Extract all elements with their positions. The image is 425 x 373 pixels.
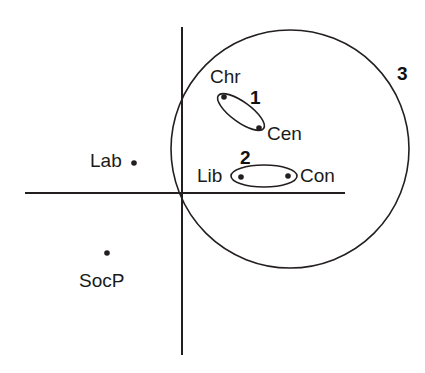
data-point-cen <box>256 125 262 131</box>
data-point-lib <box>238 174 244 180</box>
cluster-outlines-group <box>171 30 409 268</box>
data-point-con <box>285 173 291 179</box>
point-label-con: Con <box>300 166 335 185</box>
axes-group <box>25 27 345 355</box>
data-point-socp <box>104 250 110 256</box>
data-point-chr <box>221 94 227 100</box>
point-label-chr: Chr <box>210 67 241 86</box>
point-label-lab: Lab <box>90 151 122 170</box>
point-label-socp: SocP <box>79 271 124 290</box>
cluster-label-3: 3 <box>397 64 408 83</box>
cluster-outline-3 <box>171 30 409 268</box>
data-point-lab <box>131 160 137 166</box>
point-label-lib: Lib <box>197 166 222 185</box>
scatter-plot-svg <box>0 0 425 373</box>
cluster-label-2: 2 <box>240 148 251 167</box>
point-label-cen: Cen <box>267 124 302 143</box>
cluster-label-1: 1 <box>250 88 261 107</box>
diagram-canvas: 123ChrCenLibConLabSocP <box>0 0 425 373</box>
